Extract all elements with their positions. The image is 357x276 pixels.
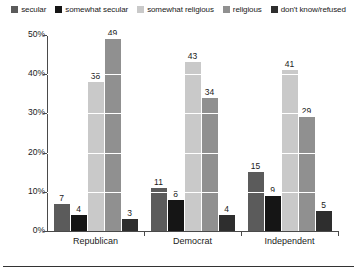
bar[interactable] — [219, 215, 235, 231]
bar[interactable] — [248, 172, 264, 231]
plot-area: 74384931184334415941295 — [47, 35, 338, 231]
bar-group: 11843344 — [144, 35, 241, 231]
bar[interactable] — [265, 196, 281, 231]
y-axis-tick-label: 10% — [5, 186, 45, 196]
x-axis-tick-label: Democrat — [144, 236, 241, 247]
bar-value-label: 5 — [309, 201, 339, 210]
bar-slot: 8 — [168, 35, 184, 231]
bar-value-label: 4 — [64, 205, 94, 214]
legend-item-label: don't know/refused — [281, 5, 346, 14]
bar-value-label: 8 — [161, 190, 191, 199]
bar-slot: 38 — [88, 35, 104, 231]
bar[interactable] — [299, 117, 315, 231]
legend-item-label: religious — [233, 5, 262, 14]
bar[interactable] — [282, 70, 298, 231]
bar-slot: 49 — [105, 35, 121, 231]
bar-value-label: 43 — [178, 52, 208, 61]
x-axis-tick-label: Republican — [47, 236, 144, 247]
x-axis-spine — [47, 231, 338, 232]
bar[interactable] — [316, 211, 332, 231]
y-axis-tick-label: 40% — [5, 68, 45, 78]
bar-slot: 43 — [185, 35, 201, 231]
y-axis-tick-label: 0% — [5, 225, 45, 235]
legend-item[interactable]: religious — [223, 5, 262, 14]
bar-groups: 74384931184334415941295 — [47, 35, 338, 231]
bar[interactable] — [71, 215, 87, 231]
bar-slot: 3 — [122, 35, 138, 231]
legend-swatch-icon — [223, 6, 230, 13]
y-axis-tick-label: 50% — [5, 29, 45, 39]
bar-group: 15941295 — [241, 35, 338, 231]
bar-value-label: 38 — [81, 72, 111, 81]
bar-slot: 15 — [248, 35, 264, 231]
bar-slot: 5 — [316, 35, 332, 231]
x-axis-group-separator — [338, 231, 339, 236]
bar-value-label: 15 — [241, 162, 271, 171]
y-axis-tick-label: 20% — [5, 147, 45, 157]
bar-value-label: 41 — [275, 60, 305, 69]
bar-value-label: 29 — [292, 107, 322, 116]
y-axis-tick-mark — [43, 231, 47, 232]
legend-swatch-icon — [137, 6, 144, 13]
bar[interactable] — [105, 39, 121, 231]
bar-slot: 11 — [151, 35, 167, 231]
bar[interactable] — [168, 200, 184, 231]
bar-value-label: 3 — [115, 209, 145, 218]
bar[interactable] — [122, 219, 138, 231]
bar-value-label: 4 — [212, 205, 242, 214]
legend-item[interactable]: don't know/refused — [271, 5, 346, 14]
bar-slot: 7 — [54, 35, 70, 231]
bar-slot: 41 — [282, 35, 298, 231]
bar-group: 7438493 — [47, 35, 144, 231]
y-axis-tick-label: 30% — [5, 107, 45, 117]
footer-divider — [3, 266, 354, 267]
x-axis-tick-label: Independent — [241, 236, 338, 247]
bar-slot: 4 — [219, 35, 235, 231]
legend-item-label: somewhat secular — [65, 5, 128, 14]
legend-swatch-icon — [11, 6, 18, 13]
bar-value-label: 11 — [144, 178, 174, 187]
x-axis-labels: RepublicanDemocratIndependent — [47, 236, 338, 247]
bar-value-label: 34 — [195, 88, 225, 97]
chart-legend: secularsomewhat secularsomewhat religiou… — [0, 5, 357, 14]
bar-value-label: 9 — [258, 186, 288, 195]
legend-swatch-icon — [271, 6, 278, 13]
legend-item-label: somewhat religious — [147, 5, 214, 14]
bar-slot: 34 — [202, 35, 218, 231]
bar-chart-figure: secularsomewhat secularsomewhat religiou… — [0, 0, 357, 276]
legend-item[interactable]: somewhat secular — [55, 5, 128, 14]
legend-item-label: secular — [21, 5, 46, 14]
legend-item[interactable]: secular — [11, 5, 46, 14]
bar-value-label: 49 — [98, 29, 128, 38]
legend-swatch-icon — [55, 6, 62, 13]
bar-value-label: 7 — [47, 194, 77, 203]
legend-item[interactable]: somewhat religious — [137, 5, 214, 14]
